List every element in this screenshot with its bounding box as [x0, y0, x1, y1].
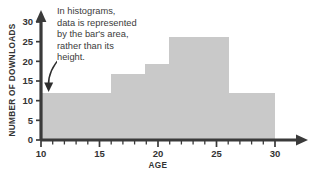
y-tick-label-30: 30: [22, 16, 33, 27]
x-tick-label-30: 30: [270, 148, 281, 159]
y-tick-label-25: 25: [22, 36, 33, 47]
y-axis-tick-labels: 30 25 20 15 10 5 0: [22, 16, 33, 145]
histogram-bar-2: [111, 74, 145, 140]
x-axis-title: AGE: [149, 161, 168, 170]
y-tick-label-0: 0: [28, 134, 33, 145]
y-axis-arrowhead: [36, 10, 47, 22]
x-tick-label-10: 10: [36, 148, 47, 159]
y-axis-title: NUMBER OF DOWNLOADS: [8, 23, 17, 136]
histogram-bar-1: [41, 93, 111, 140]
annotation-text: In histograms, data is represented by th…: [57, 6, 169, 64]
x-tick-label-25: 25: [211, 148, 222, 159]
y-tick-label-20: 20: [22, 56, 33, 67]
x-axis-arrowhead: [296, 135, 308, 146]
histogram-bar-4: [229, 93, 275, 140]
x-axis-tick-labels: 10 15 20 25 30: [36, 148, 281, 159]
y-tick-label-10: 10: [22, 95, 33, 106]
histogram-figure: 30 25 20 15 10 5 0: [0, 0, 326, 172]
y-tick-label-15: 15: [22, 75, 33, 86]
y-tick-label-5: 5: [28, 115, 34, 126]
x-tick-label-15: 15: [94, 148, 105, 159]
x-tick-label-20: 20: [153, 148, 164, 159]
